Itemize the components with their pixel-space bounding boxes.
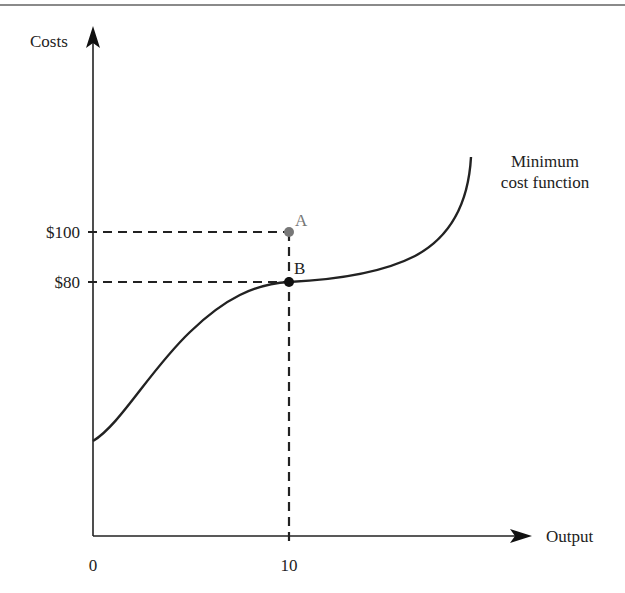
point-b-label: B <box>294 260 305 277</box>
x-tick-0: 0 <box>83 557 103 574</box>
x-tick-10: 10 <box>274 557 304 574</box>
point-b-marker <box>284 277 294 287</box>
cost-chart <box>0 0 625 593</box>
curve-label-line2: cost function <box>480 174 610 191</box>
minimum-cost-curve <box>93 157 471 441</box>
x-axis-label: Output <box>546 528 593 545</box>
curve-label-line1: Minimum <box>480 153 610 170</box>
point-a-label: A <box>295 212 307 229</box>
point-a-marker <box>284 227 294 237</box>
y-tick-100: $100 <box>20 224 80 241</box>
y-tick-80: $80 <box>20 274 80 291</box>
y-axis-label: Costs <box>30 33 68 50</box>
